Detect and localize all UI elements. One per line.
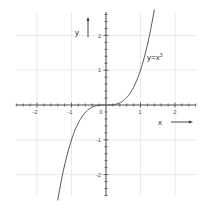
curve-label: y=x3 bbox=[147, 52, 163, 62]
y-arrow-icon bbox=[87, 17, 90, 37]
x-axis-label: x bbox=[158, 118, 162, 127]
cubic-function-plot: -2 -1 0 1 2 2 1 -1 -2 y=x3 y x bbox=[0, 0, 205, 208]
x-tick-label: 1 bbox=[138, 109, 142, 115]
x-tick-label: -1 bbox=[67, 109, 73, 115]
x-tick-label: 2 bbox=[173, 109, 177, 115]
x-tick-label: 0 bbox=[99, 109, 103, 115]
y-axis-label: y bbox=[75, 28, 79, 37]
y-tick-label: -2 bbox=[96, 172, 102, 178]
x-arrow-icon bbox=[171, 121, 193, 124]
x-tick-label: -2 bbox=[32, 109, 38, 115]
y-tick-label: -1 bbox=[96, 137, 102, 143]
